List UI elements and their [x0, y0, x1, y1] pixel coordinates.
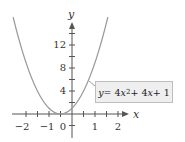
- x-tick-label-neg2: −2: [15, 121, 30, 132]
- y-axis-label: y: [67, 8, 75, 21]
- y-tick-label-4: 4: [60, 85, 66, 96]
- x-axis-label: x: [133, 108, 140, 121]
- equation-tail: + 1: [153, 87, 170, 98]
- x-tick-label-1: 1: [92, 121, 98, 132]
- y-axis-arrow-icon: [69, 22, 75, 29]
- y-tick-label-12: 12: [53, 39, 66, 50]
- equation-eq: = 4: [104, 87, 121, 98]
- x-axis-arrow-icon: [122, 111, 129, 117]
- equation-callout: y = 4x2 + 4x + 1: [95, 81, 173, 103]
- parabola-chart: −2 −1 0 1 2 4 8 12 x y: [0, 0, 185, 142]
- x-tick-label-0: 0: [60, 121, 66, 132]
- x-tick-label-neg1: −1: [40, 121, 55, 132]
- equation-mid: + 4: [130, 87, 147, 98]
- y-tick-label-8: 8: [60, 62, 66, 73]
- x-tick-label-2: 2: [115, 121, 121, 132]
